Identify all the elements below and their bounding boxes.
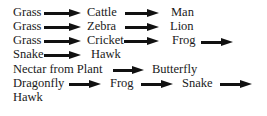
organism-label: Grass — [13, 5, 41, 19]
arrow-icon — [125, 23, 159, 32]
organism-label: Cattle — [87, 5, 117, 19]
organism-label: Snake — [13, 47, 44, 61]
organism-label: Nectar from Plant — [13, 62, 103, 76]
organism-label: Man — [171, 5, 194, 19]
arrow-icon — [44, 9, 81, 18]
organism-label: Dragonfly — [13, 76, 64, 90]
arrow-icon — [220, 80, 252, 89]
arrow-icon — [113, 66, 144, 75]
organism-label: Hawk — [13, 90, 43, 104]
organism-label: Butterfly — [152, 62, 197, 76]
organism-label: Grass — [13, 33, 41, 47]
organism-label: Frog — [172, 33, 196, 47]
organism-label: Hawk — [91, 47, 121, 61]
arrow-icon — [44, 51, 81, 60]
arrow-icon — [124, 37, 159, 46]
organism-label: Zebra — [87, 19, 116, 33]
organism-label: Grass — [13, 19, 41, 33]
organism-label: Cricket — [87, 33, 124, 47]
arrow-icon — [69, 80, 101, 89]
organism-label: Lion — [170, 19, 194, 33]
organism-label: Snake — [182, 76, 213, 90]
arrow-icon — [44, 37, 81, 46]
arrow-icon — [201, 38, 233, 47]
arrow-icon — [44, 23, 81, 32]
arrow-icon — [141, 80, 173, 89]
arrow-icon — [125, 9, 159, 18]
organism-label: Frog — [110, 76, 134, 90]
